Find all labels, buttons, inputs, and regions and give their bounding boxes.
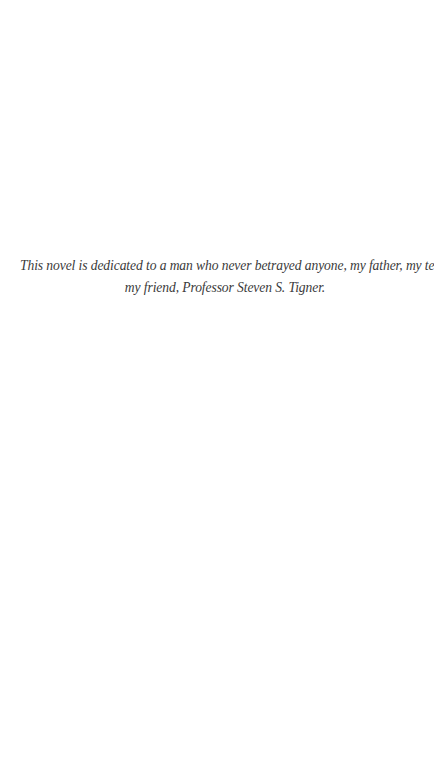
dedication-line-1: This novel is dedicated to a man who nev… (20, 255, 430, 277)
dedication-line-2: my friend, Professor Steven S. Tigner. (20, 277, 430, 299)
book-page: This novel is dedicated to a man who nev… (0, 0, 434, 757)
dedication-text: This novel is dedicated to a man who nev… (20, 255, 430, 299)
